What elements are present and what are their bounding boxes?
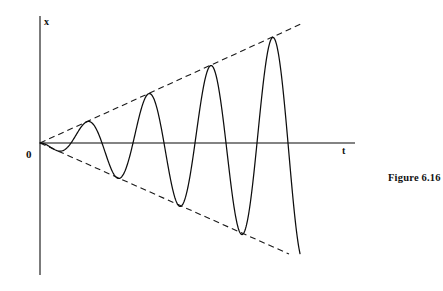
origin-label: 0 <box>26 149 32 160</box>
oscillation-curve <box>40 37 300 253</box>
lower-envelope-line <box>40 143 289 254</box>
figure-container: x t 0 Figure 6.16 <box>0 0 443 291</box>
x-axis-label: t <box>342 146 345 156</box>
oscillation-plot <box>0 0 443 291</box>
figure-caption: Figure 6.16 <box>388 172 441 183</box>
y-axis-label: x <box>44 17 49 27</box>
upper-envelope-line <box>40 24 301 143</box>
